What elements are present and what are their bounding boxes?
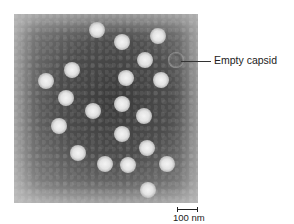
empty-capsid: [168, 52, 184, 68]
virus-particle: [38, 73, 54, 89]
scale-bar-label: 100 nm: [173, 212, 205, 223]
virus-particle: [114, 126, 130, 142]
virus-particle: [150, 28, 166, 44]
virus-particle: [114, 96, 130, 112]
micrograph-edge: [14, 14, 198, 203]
electron-micrograph: [14, 14, 198, 203]
virus-particle: [97, 156, 113, 172]
virus-particle: [153, 72, 169, 88]
scale-bar: [177, 209, 198, 210]
virus-particle: [70, 145, 86, 161]
virus-particle: [114, 34, 130, 50]
virus-particle: [139, 140, 155, 156]
virus-particle: [58, 90, 74, 106]
virus-particle: [64, 62, 80, 78]
virus-particle: [85, 103, 101, 119]
virus-particle: [118, 70, 134, 86]
virus-particle: [159, 156, 175, 172]
empty-capsid-label: Empty capsid: [214, 54, 277, 66]
virus-particle: [137, 52, 153, 68]
virus-particle: [51, 118, 67, 134]
virus-particle: [89, 22, 105, 38]
virus-particle: [136, 108, 152, 124]
virus-particle: [120, 157, 136, 173]
virus-particle: [140, 182, 156, 198]
annotation-leader-line: [181, 61, 211, 62]
